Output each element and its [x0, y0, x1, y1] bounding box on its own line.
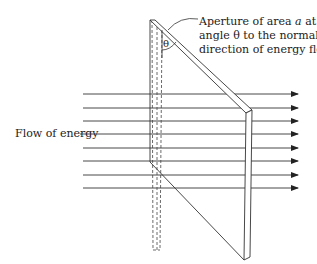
flow-of-energy-label: Flow of energy [15, 127, 99, 141]
caption-line3: direction of energy flow [199, 43, 317, 57]
aperture-caption: Aperture of area a at an angle θ to the … [199, 15, 317, 57]
caption-line1-end: at an [302, 15, 317, 28]
theta-label: θ [163, 38, 169, 49]
caption-line2: angle θ to the normal to [199, 29, 317, 43]
energy-flow-arrows [83, 94, 298, 188]
caption-line1-text: Aperture of area [199, 15, 295, 28]
normal-plane-dashed [152, 20, 162, 250]
